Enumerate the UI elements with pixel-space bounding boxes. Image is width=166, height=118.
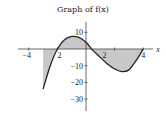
function-graph: −422410−10−20−30x bbox=[0, 0, 166, 118]
svg-text:−4: −4 bbox=[23, 51, 32, 60]
svg-text:x: x bbox=[155, 45, 160, 54]
svg-text:2: 2 bbox=[57, 51, 61, 60]
svg-text:−30: −30 bbox=[70, 95, 83, 104]
svg-text:4: 4 bbox=[141, 51, 145, 60]
shaded-area bbox=[43, 36, 143, 89]
svg-text:2: 2 bbox=[103, 51, 107, 60]
svg-text:−20: −20 bbox=[70, 78, 83, 87]
svg-text:10: 10 bbox=[75, 28, 83, 37]
svg-text:−10: −10 bbox=[70, 62, 83, 71]
